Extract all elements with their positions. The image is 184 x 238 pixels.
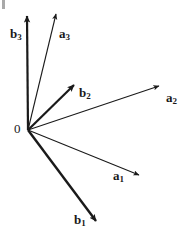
vector-label-a1-sub: 1 — [120, 174, 125, 184]
vector-label-a2-sub: 2 — [173, 96, 178, 106]
origin-label-text: 0 — [14, 121, 21, 136]
vector-label-a1-base: a — [113, 168, 120, 183]
vector-ray-a2 — [28, 86, 159, 130]
vector-rays-svg — [0, 0, 184, 238]
origin-label: 0 — [14, 122, 21, 135]
vector-diagram-figure: 0 b3 a3 b2 a2 a1 b1 — [0, 0, 184, 238]
vector-label-b3-sub: 3 — [17, 32, 22, 42]
vector-label-a2-base: a — [166, 90, 173, 105]
vector-label-a2: a2 — [166, 91, 177, 104]
vector-label-b2: b2 — [79, 86, 91, 99]
vector-label-a3: a3 — [59, 27, 70, 40]
vector-ray-a3 — [28, 14, 56, 130]
vector-label-a1: a1 — [113, 169, 124, 182]
vector-ray-b2 — [28, 85, 74, 130]
vector-label-a3-sub: 3 — [66, 32, 71, 42]
vector-label-b2-sub: 2 — [86, 91, 91, 101]
vector-label-b1-sub: 1 — [81, 218, 86, 228]
vector-ray-b3 — [27, 16, 28, 130]
vector-label-b1: b1 — [74, 213, 86, 226]
vector-label-a3-base: a — [59, 26, 66, 41]
vector-label-b3: b3 — [10, 27, 22, 40]
